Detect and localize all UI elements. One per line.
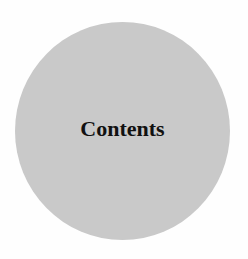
diagram-canvas: Contents <box>0 0 248 259</box>
contents-circle-node: Contents <box>15 22 230 240</box>
node-label: Contents <box>80 116 164 142</box>
